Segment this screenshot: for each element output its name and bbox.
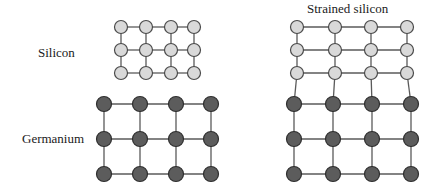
strained-silicon-atom: [291, 21, 304, 34]
substrate-germanium-atom: [287, 167, 302, 182]
strained-silicon-atom: [291, 67, 304, 80]
strained-silicon-atom: [291, 44, 304, 57]
strained-silicon-atom: [401, 21, 414, 34]
substrate-germanium-atom: [365, 97, 380, 112]
strained-silicon-atom: [329, 21, 342, 34]
strained-silicon-atom: [365, 67, 378, 80]
germanium-atom: [133, 97, 148, 112]
germanium-atom: [133, 167, 148, 182]
silicon-atom: [188, 21, 201, 34]
strained-silicon-atom: [365, 44, 378, 57]
strained-silicon-atom: [401, 44, 414, 57]
substrate-germanium-atom: [365, 132, 380, 147]
substrate-germanium-atom: [404, 97, 419, 112]
germanium-atom: [204, 132, 219, 147]
silicon-atom: [140, 21, 153, 34]
germanium-atom: [204, 97, 219, 112]
germanium-atom: [97, 97, 112, 112]
germanium-atom: [97, 132, 112, 147]
germanium-atom: [204, 167, 219, 182]
substrate-germanium-atom: [404, 167, 419, 182]
substrate-germanium-atom: [326, 97, 341, 112]
diagram-canvas: Silicon Germanium Strained silicon: [0, 0, 431, 190]
strained-silicon-atom: [329, 44, 342, 57]
substrate-germanium-atom: [287, 132, 302, 147]
strained-silicon-atom: [401, 67, 414, 80]
silicon-atom: [165, 21, 178, 34]
silicon-atom: [188, 67, 201, 80]
silicon-atom: [115, 21, 128, 34]
silicon-atom: [115, 44, 128, 57]
silicon-atom: [140, 67, 153, 80]
silicon-atom: [165, 44, 178, 57]
silicon-atom: [188, 44, 201, 57]
substrate-germanium-atom: [326, 167, 341, 182]
strained-silicon-atom: [365, 21, 378, 34]
germanium-atom: [169, 167, 184, 182]
strained-silicon-atom: [329, 67, 342, 80]
germanium-atom: [133, 132, 148, 147]
atoms-layer: [97, 21, 419, 182]
silicon-atom: [115, 67, 128, 80]
germanium-atom: [97, 167, 112, 182]
substrate-germanium-atom: [404, 132, 419, 147]
germanium-atom: [169, 132, 184, 147]
substrate-germanium-atom: [326, 132, 341, 147]
germanium-atom: [169, 97, 184, 112]
silicon-atom: [140, 44, 153, 57]
substrate-germanium-atom: [287, 97, 302, 112]
silicon-atom: [165, 67, 178, 80]
lattice-drawing: [0, 0, 431, 190]
substrate-germanium-atom: [365, 167, 380, 182]
